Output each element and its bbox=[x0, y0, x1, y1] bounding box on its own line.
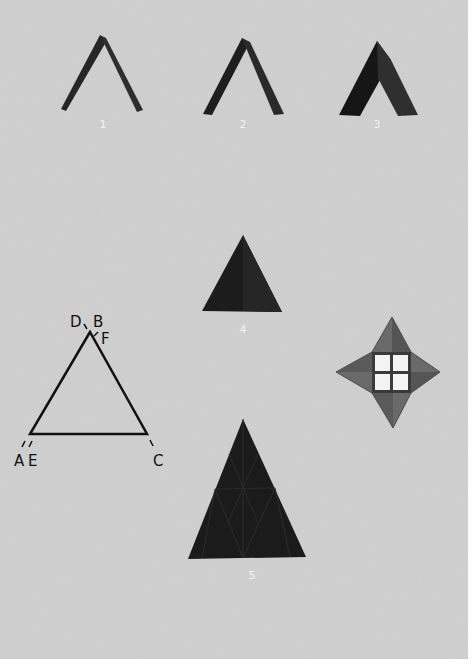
label-c: C bbox=[153, 452, 163, 470]
label-b: B bbox=[93, 313, 103, 331]
book-plate: 1 2 3 4 5 bbox=[0, 0, 468, 659]
figure-2-number: 2 bbox=[240, 118, 247, 131]
figure-5-number: 5 bbox=[249, 569, 256, 582]
plate-illustrations: 1 2 3 4 5 bbox=[0, 0, 468, 659]
label-d: D bbox=[70, 313, 82, 331]
label-e: E bbox=[28, 452, 37, 470]
figure-1-number: 1 bbox=[100, 118, 107, 131]
figure-3-number: 3 bbox=[374, 118, 381, 131]
figure-4-number: 4 bbox=[240, 323, 247, 336]
label-f: F bbox=[101, 330, 110, 348]
label-a: A bbox=[14, 452, 25, 470]
